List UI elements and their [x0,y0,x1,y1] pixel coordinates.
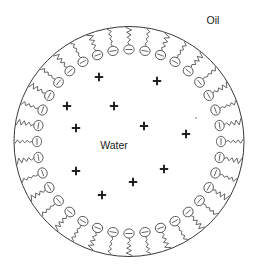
counter-ion-plus [182,130,190,138]
surfactant-tail [17,158,33,165]
surfactant-tail [178,42,187,58]
surfactant-molecule [29,83,56,102]
surfactant-tail [213,82,227,93]
surfactant-molecule [31,181,56,201]
surfactant-molecule [168,215,187,240]
surfactant-tail [72,226,81,242]
surfactant-tail [162,233,171,248]
water-label: Water [100,139,128,151]
surfactant-tail [213,190,229,200]
counter-ion-layer [63,73,190,199]
counter-ion-plus [153,77,161,85]
surfactant-tail [191,216,204,229]
surfactant-molecule [214,152,242,164]
counter-ion-plus [129,178,137,186]
counter-ion-plus [160,165,168,173]
counter-ion-plus [63,102,71,110]
surfactant-tail [15,140,32,144]
surfactant-tail [162,33,170,50]
surfactant-molecule [88,222,104,250]
surfactant-molecule [216,136,243,146]
surfactant-molecule [21,102,48,117]
surfactant-tail [22,175,37,182]
surfactant-molecule [139,29,151,56]
oil-label: Oil [207,14,220,26]
surfactant-tail [225,157,242,163]
surfactant-tail [225,119,241,126]
surfactant-molecule [202,181,229,200]
surfactant-tail [54,54,67,67]
surfactant-molecule [87,35,104,61]
surfactant-molecule [209,101,235,117]
surfactant-tail [146,237,151,253]
surfactant-tail [203,67,215,79]
counter-ion-plus [95,73,103,81]
counter-ion-plus [110,102,118,110]
surfactant-molecule [71,44,90,69]
surfactant-tail [178,226,188,240]
surfactant-tail [43,204,55,216]
surfactant-tail [191,52,202,67]
surfactant-molecule [193,194,218,215]
speck-layer [195,117,197,119]
surfactant-molecule [124,229,134,256]
surfactant-tail [108,237,112,254]
surfactant-tail [71,44,81,58]
surfactant-tail [220,101,235,109]
surfactant-molecule [22,167,48,182]
surfactant-molecule [214,119,241,132]
diagram-canvas: Oil Water [0,0,258,269]
surfactant-molecule [209,167,236,182]
counter-ion-plus [98,191,106,199]
surfactant-molecule [107,227,119,254]
surfactant-tail [203,204,217,215]
surfactant-molecule [181,205,204,229]
surfactant-molecule [107,30,119,57]
micelle-diagram: Oil Water [0,0,258,269]
surfactant-molecule [193,67,216,89]
surfactant-molecule [41,69,66,90]
surfactant-tail [41,69,55,80]
counter-ion-plus [72,167,80,175]
surfactant-layer [15,28,243,256]
surfactant-molecule [16,119,44,131]
surfactant-molecule [54,54,77,78]
surfactant-molecule [168,42,186,69]
surfactant-molecule [154,33,170,61]
surfactant-tail [31,190,45,201]
surfactant-molecule [15,136,42,146]
surfactant-molecule [17,152,44,165]
surfactant-tail [55,216,66,231]
surfactant-molecule [124,28,134,55]
surfactant-tail [220,175,237,182]
surfactant-tail [107,30,112,46]
surfactant-tail [87,35,96,50]
surfactant-tail [21,102,38,109]
counter-ion-plus [72,124,80,132]
surfactant-tail [146,29,150,46]
surfactant-molecule [72,215,90,242]
surfactant-tail [16,119,33,125]
surfactant-tail [126,28,132,45]
surfactant-tail [226,140,243,144]
surfactant-tail [88,233,96,250]
surfactant-molecule [202,82,227,102]
surfactant-molecule [43,194,66,216]
surfactant-molecule [55,205,77,231]
surfactant-molecule [139,227,151,254]
droplet-boundary-circle [14,27,244,257]
decorative-speck [195,117,197,119]
surfactant-tail [126,239,132,256]
counter-ion-plus [140,122,148,130]
surfactant-tail [29,83,45,93]
surfactant-molecule [181,52,203,78]
surfactant-molecule [154,222,171,248]
